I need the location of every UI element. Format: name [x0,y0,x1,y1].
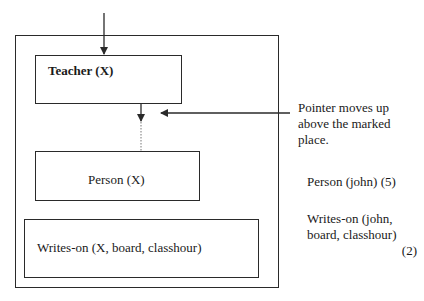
fact-person-john: Person (john) (5) [307,174,396,190]
teacher-box: Teacher (X) [35,55,182,104]
pointer-note-line-3: place. [298,132,418,148]
fact2-line-1: Writes-on (john, [307,211,417,227]
writes-on-label: Writes-on (X, board, classhour) [37,240,201,256]
pointer-note-line-2: above the marked [298,116,418,132]
fact2-number: (2) [307,243,417,259]
writes-on-box: Writes-on (X, board, classhour) [24,219,259,278]
fact-writes-on-john: Writes-on (john, board, classhour) (2) [307,211,417,259]
pointer-note: Pointer moves up above the marked place. [298,100,418,148]
pointer-note-line-1: Pointer moves up [298,100,418,116]
person-box: Person (X) [35,151,200,201]
person-label: Person (X) [88,172,145,188]
fact2-line-2: board, classhour) [307,227,417,243]
teacher-label: Teacher (X) [48,63,113,79]
